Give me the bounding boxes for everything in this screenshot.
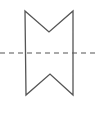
diagram-canvas	[0, 0, 105, 115]
